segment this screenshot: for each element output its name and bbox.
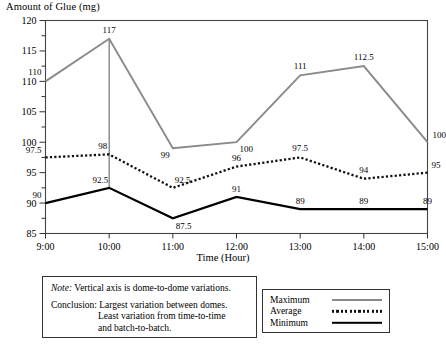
- legend: Maximum Average Minimum: [262, 289, 390, 333]
- note-box: Note: Vertical axis is dome-to-dome vari…: [42, 276, 257, 338]
- y-tick-label: 85: [27, 228, 37, 239]
- conclusion-line-3: and batch-to-batch.: [51, 323, 248, 335]
- y-tick-label: 105: [22, 106, 37, 117]
- point-label-minimum: 89: [359, 196, 369, 206]
- y-tick-label: 110: [22, 76, 37, 87]
- legend-item-average: Average: [270, 306, 382, 318]
- legend-label-average: Average: [270, 306, 328, 316]
- x-tick-label: 12:00: [225, 241, 248, 252]
- conclusion-line-1: Conclusion: Largest variation between do…: [51, 300, 248, 312]
- point-label-maximum: 99: [161, 150, 171, 160]
- conclusion-text-1: Largest variation between domes.: [99, 300, 227, 310]
- point-label-minimum: 89: [296, 196, 306, 206]
- legend-swatch-minimum: [328, 318, 382, 328]
- note-line: Note: Vertical axis is dome-to-dome vari…: [51, 283, 248, 295]
- note-label: Note:: [51, 283, 72, 293]
- point-label-maximum: 110: [28, 67, 42, 77]
- point-label-average: 97.5: [292, 143, 308, 153]
- conclusion-line-2: Least variation from time-to-time: [51, 311, 248, 323]
- x-tick-label: 10:00: [98, 241, 121, 252]
- legend-item-maximum: Maximum: [270, 294, 382, 306]
- note-text: Vertical axis is dome-to-dome variations…: [74, 283, 230, 293]
- point-label-maximum: 111: [294, 61, 307, 71]
- conclusion-label: Conclusion:: [51, 300, 97, 310]
- x-axis-title: Time (Hour): [0, 252, 446, 263]
- x-tick-label: 9:00: [37, 241, 55, 252]
- point-label-minimum: 92.5: [92, 175, 108, 185]
- point-label-average: 92.5: [175, 175, 191, 185]
- x-tick-label: 11:00: [162, 241, 184, 252]
- x-tick-label: 15:00: [416, 241, 439, 252]
- x-tick-label: 14:00: [352, 241, 375, 252]
- legend-swatch-maximum: [328, 295, 382, 305]
- y-tick-label: 120: [22, 15, 37, 26]
- point-label-minimum: 89: [423, 196, 433, 206]
- point-label-maximum: 100: [433, 130, 446, 140]
- y-tick-label: 115: [22, 45, 37, 56]
- point-label-minimum: 91: [232, 184, 241, 194]
- legend-swatch-average: [328, 306, 382, 316]
- point-label-minimum: 87.5: [176, 221, 192, 231]
- point-label-average: 95: [432, 160, 442, 170]
- point-label-maximum: 112.5: [354, 52, 374, 62]
- point-label-average: 98: [98, 141, 108, 151]
- point-label-average: 94: [359, 165, 369, 175]
- legend-label-maximum: Maximum: [270, 295, 328, 305]
- point-label-minimum: 90: [33, 190, 43, 200]
- legend-item-minimum: Minimum: [270, 317, 382, 329]
- point-label-maximum: 117: [103, 25, 117, 35]
- y-tick-label: 95: [27, 167, 37, 178]
- legend-label-minimum: Minimum: [270, 318, 328, 328]
- point-label-average: 97.5: [26, 145, 42, 155]
- point-label-average: 96: [232, 153, 242, 163]
- point-label-maximum: 100: [240, 144, 254, 154]
- x-tick-label: 13:00: [289, 241, 312, 252]
